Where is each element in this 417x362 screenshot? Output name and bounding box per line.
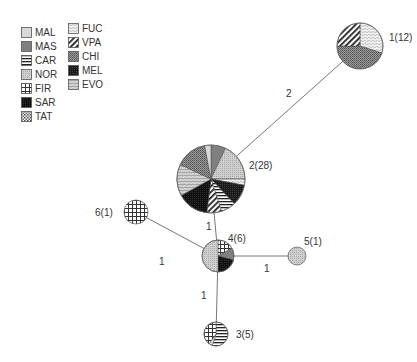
swatch-car-icon	[21, 55, 32, 66]
swatch-mel-icon	[68, 65, 79, 76]
slice-nor	[202, 240, 218, 272]
haplotype-node-2	[177, 145, 245, 213]
swatch-evo-icon	[68, 79, 79, 90]
edge-weight-label: 1	[201, 290, 207, 301]
swatch-fir-icon	[21, 83, 32, 94]
nodes-layer	[124, 23, 383, 346]
haplotype-node-4	[202, 240, 234, 272]
node-label-3: 3(5)	[236, 329, 254, 340]
edge-weight-label: 1	[264, 263, 270, 274]
edge-weight-label: 2	[286, 88, 292, 99]
swatch-fuc-icon	[68, 23, 79, 34]
haplotype-node-1	[337, 23, 383, 69]
edge-weight-label: 1	[159, 256, 165, 267]
node-label-2: 2(28)	[249, 160, 272, 171]
swatch-nor-icon	[21, 69, 32, 80]
node-label-1: 1(12)	[389, 32, 412, 43]
swatch-sar-icon	[21, 97, 32, 108]
haplotype-node-6	[124, 200, 148, 224]
edges-layer	[136, 46, 360, 334]
haplotype-network	[0, 0, 417, 362]
haplotype-node-3	[204, 322, 228, 346]
node-label-5: 5(1)	[304, 236, 322, 247]
swatch-mas-icon	[21, 41, 32, 52]
swatch-tat-icon	[21, 111, 32, 122]
swatch-mal-icon	[21, 27, 32, 38]
swatch-chi-icon	[68, 51, 79, 62]
haplotype-node-5	[288, 247, 306, 265]
swatch-vpa-icon	[68, 37, 79, 48]
edge-weight-label: 1	[206, 221, 212, 232]
node-label-4: 4(6)	[228, 233, 246, 244]
node-label-6: 6(1)	[95, 207, 113, 218]
